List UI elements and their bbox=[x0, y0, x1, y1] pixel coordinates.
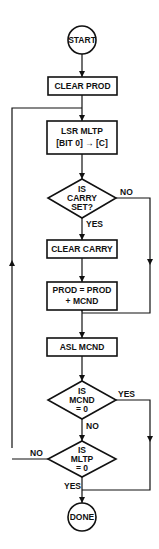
add-line2: + MCND bbox=[66, 296, 99, 306]
asl-mcnd-process: ASL MCND bbox=[47, 338, 117, 356]
lsr-line2: [BIT 0] → [C] bbox=[56, 138, 108, 148]
mltp-line3: = 0 bbox=[76, 463, 88, 473]
carry-line3: SET? bbox=[71, 202, 93, 212]
add-mcnd-process: PROD = PROD + MCND bbox=[47, 282, 117, 310]
carry-set-decision: IS CARRY SET? bbox=[48, 179, 116, 218]
clear-prod-label: CLEAR PROD bbox=[54, 81, 110, 91]
start-label: START bbox=[68, 35, 97, 45]
mcnd-yes-label: YES bbox=[118, 389, 135, 399]
start-terminal: START bbox=[68, 26, 97, 54]
mltp-no-label: NO bbox=[30, 448, 43, 458]
asl-label: ASL MCND bbox=[60, 342, 105, 352]
mltp-yes-label: YES bbox=[64, 481, 81, 491]
lsr-mltp-process: LSR MLTP [BIT 0] → [C] bbox=[47, 121, 117, 154]
clear-carry-label: CLEAR CARRY bbox=[51, 244, 113, 254]
done-terminal: DONE bbox=[68, 503, 96, 531]
done-label: DONE bbox=[70, 512, 95, 522]
add-line1: PROD = PROD bbox=[53, 285, 112, 295]
carry-no-label: NO bbox=[120, 187, 133, 197]
clear-carry-process: CLEAR CARRY bbox=[47, 240, 117, 258]
clear-prod-process: CLEAR PROD bbox=[48, 77, 117, 95]
flowchart: START CLEAR PROD LSR MLTP [BIT 0] → [C] … bbox=[0, 0, 159, 549]
mcnd-line3: = 0 bbox=[76, 404, 88, 414]
mltp-zero-decision: IS MLTP = 0 bbox=[48, 441, 116, 477]
carry-yes-label: YES bbox=[86, 219, 103, 229]
mcnd-no-label: NO bbox=[86, 421, 99, 431]
mcnd-zero-decision: IS MCND = 0 bbox=[48, 381, 116, 419]
lsr-line1: LSR MLTP bbox=[61, 126, 103, 136]
